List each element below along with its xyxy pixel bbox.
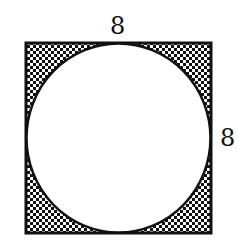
inscribed-circle: [27, 44, 211, 233]
right-side-length-label: 8: [220, 126, 235, 150]
top-side-length-label: 8: [110, 14, 125, 38]
